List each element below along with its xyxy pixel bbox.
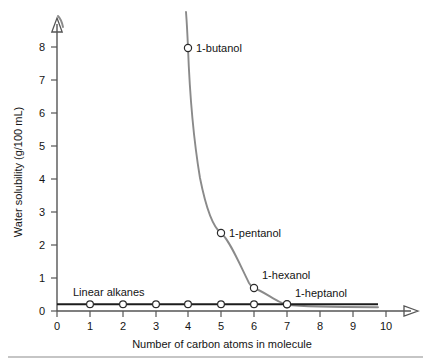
data-point-alkane-6[interactable]	[251, 301, 258, 308]
data-point-alkane-5[interactable]	[218, 301, 225, 308]
y-tick-label-2: 2	[39, 239, 45, 251]
y-tick-label-8: 8	[39, 41, 45, 53]
data-point-alkane-2[interactable]	[120, 301, 127, 308]
y-tick-label-0: 0	[39, 305, 45, 317]
y-tick-label-4: 4	[39, 173, 45, 185]
alcohol-curve	[186, 12, 378, 307]
x-axis: 0 1 2 3 4 5 6 7 8 9 10 Number of carbon …	[54, 306, 418, 350]
x-tick-label-4: 4	[185, 320, 191, 332]
x-tick-label-9: 9	[350, 320, 356, 332]
label-linear-alkanes: Linear alkanes	[73, 286, 145, 298]
label-1-heptanol: 1-heptanol	[295, 287, 347, 299]
data-point-1-hexanol[interactable]	[250, 284, 257, 291]
data-point-alkane-1[interactable]	[87, 301, 94, 308]
solubility-line-chart: 8 7 6 5 4 3 2 1 0 Water solubility (g/10…	[0, 0, 431, 361]
y-tick-label-5: 5	[39, 140, 45, 152]
x-tick-label-2: 2	[120, 320, 126, 332]
y-tick-label-1: 1	[39, 272, 45, 284]
y-axis: 8 7 6 5 4 3 2 1 0 Water solubility (g/10…	[12, 18, 62, 317]
label-1-butanol: 1-butanol	[196, 42, 242, 54]
series-alcohols	[58, 12, 378, 307]
x-tick-label-8: 8	[317, 320, 323, 332]
data-point-1-butanol[interactable]	[184, 44, 191, 51]
x-tick-label-3: 3	[153, 320, 159, 332]
y-axis-title: Water solubility (g/100 mL)	[12, 107, 24, 237]
x-tick-label-1: 1	[87, 320, 93, 332]
y-tick-label-7: 7	[39, 74, 45, 86]
data-point-alkane-3[interactable]	[153, 301, 160, 308]
x-tick-label-7: 7	[284, 320, 290, 332]
data-point-alkane-4[interactable]	[185, 301, 192, 308]
y-tick-label-6: 6	[39, 107, 45, 119]
x-tick-label-10: 10	[380, 320, 392, 332]
x-tick-label-0: 0	[54, 320, 60, 332]
data-point-1-pentanol[interactable]	[217, 229, 224, 236]
x-axis-title: Number of carbon atoms in molecule	[132, 338, 312, 350]
chart-figure: 8 7 6 5 4 3 2 1 0 Water solubility (g/10…	[0, 0, 431, 361]
data-point-1-heptanol[interactable]	[283, 301, 290, 308]
label-1-hexanol: 1-hexanol	[262, 269, 310, 281]
point-annotations: 1-butanol 1-pentanol 1-hexanol 1-heptano…	[73, 42, 347, 299]
x-tick-label-5: 5	[218, 320, 224, 332]
label-1-pentanol: 1-pentanol	[229, 227, 281, 239]
x-tick-label-6: 6	[251, 320, 257, 332]
y-tick-label-3: 3	[39, 206, 45, 218]
